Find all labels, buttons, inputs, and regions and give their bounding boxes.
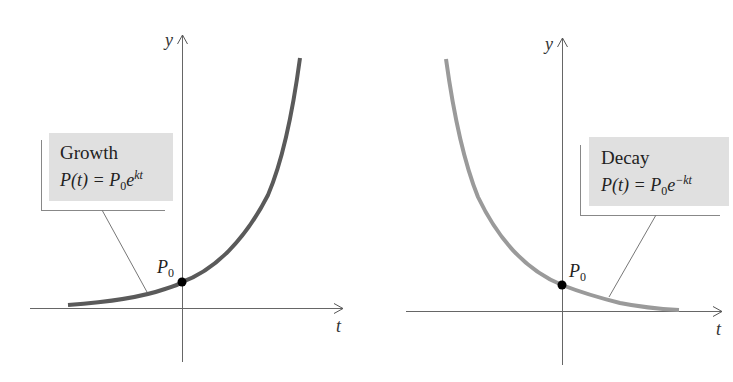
decay-t-label: t [716,319,722,339]
decay-title: Decay [601,147,650,168]
growth-leader-line [102,210,147,292]
decay-y-label: y [543,34,553,54]
growth-title: Growth [60,142,119,163]
growth-panel: Growth P(t) = P0ekt P0 y t [30,30,343,362]
exponential-diagram: Growth P(t) = P0ekt P0 y t Decay P(t) = … [0,0,733,382]
growth-t-label: t [336,316,342,336]
decay-p0-point [558,281,567,290]
decay-p0-label: P0 [568,261,586,284]
growth-p0-label: P0 [156,257,174,280]
growth-y-label: y [163,30,173,50]
growth-p0-point [178,278,187,287]
decay-leader-line [609,215,656,297]
decay-panel: Decay P(t) = P0e−kt P0 y t [406,34,729,365]
growth-equation: P(t) = P0ekt [59,168,143,193]
